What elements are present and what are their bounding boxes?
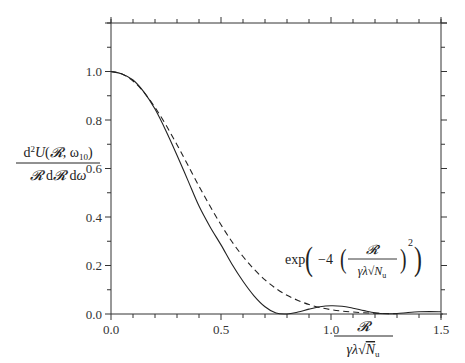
plot-frame (107, 19, 447, 318)
x-tick-label: 0.5 (213, 322, 229, 337)
svg-text:𝓡: 𝓡 (357, 319, 373, 334)
svg-text:): ) (414, 240, 422, 278)
intensity-solid-curve (111, 72, 441, 315)
svg-text:(: ( (305, 240, 313, 278)
data-curves (111, 72, 441, 315)
svg-text:γλ√Nu: γλ√Nu (346, 342, 380, 359)
svg-text:γλ√Nu: γλ√Nu (358, 264, 387, 280)
x-axis-label: 𝓡 γλ√Nu (334, 319, 393, 359)
y-tick-label: 0.2 (86, 258, 102, 273)
svg-text:exp: exp (285, 252, 305, 267)
tick-labels: 0.00.51.01.50.00.20.40.60.81.0 (86, 64, 449, 337)
x-tick-label: 0.0 (103, 322, 119, 337)
x-tick-label: 1.0 (323, 322, 339, 337)
svg-text:): ) (400, 243, 407, 275)
svg-text:d2U(𝓡, ω10): d2U(𝓡, ω10) (23, 144, 93, 162)
y-tick-label: 0.0 (86, 307, 102, 322)
axis-ticks (105, 17, 447, 320)
chart: 0.00.51.01.50.00.20.40.60.81.0 d2U(𝓡, ω1… (0, 0, 465, 363)
y-tick-label: 0.4 (86, 210, 103, 225)
svg-text:𝓡 d𝓡 dω: 𝓡 d𝓡 dω (30, 168, 87, 183)
svg-text:(: ( (340, 243, 347, 275)
x-tick-label: 1.5 (433, 322, 449, 337)
svg-text:2: 2 (408, 237, 413, 248)
svg-text:−4: −4 (318, 252, 333, 267)
gaussian-annotation: exp ( −4 ( 𝓡 γλ√Nu ) 2 ) (285, 237, 422, 280)
svg-text:𝓡: 𝓡 (366, 242, 381, 257)
y-tick-label: 1.0 (86, 64, 102, 79)
y-tick-label: 0.8 (86, 113, 102, 128)
y-axis-label: d2U(𝓡, ω10) 𝓡 d𝓡 dω (16, 144, 100, 183)
